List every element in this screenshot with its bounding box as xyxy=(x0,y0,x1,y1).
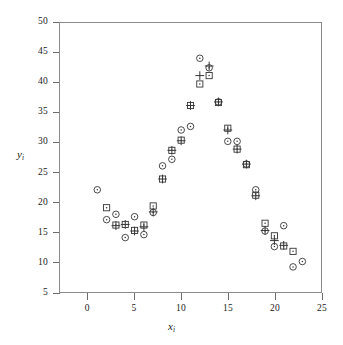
y-tick-label: 35 xyxy=(0,107,48,117)
data-point-circle xyxy=(225,138,232,145)
x-tick-label: 15 xyxy=(213,303,243,313)
y-tick-label: 40 xyxy=(0,77,48,87)
data-point-square xyxy=(262,220,268,226)
data-point-circle xyxy=(280,222,287,229)
data-point-square xyxy=(197,81,203,87)
data-points-layer xyxy=(60,23,321,292)
y-tick-label: 5 xyxy=(0,288,48,298)
y-tick-label: 10 xyxy=(0,258,48,268)
x-tick-mark xyxy=(228,293,229,300)
scatter-plot-figure: 5101520253035404550 0510152025 yi xi xyxy=(0,0,343,345)
y-tick-label: 30 xyxy=(0,137,48,147)
data-point-plus xyxy=(195,71,204,80)
data-point-square xyxy=(104,205,110,211)
x-tick-mark xyxy=(87,293,88,300)
data-point-circle xyxy=(290,264,297,271)
data-point-circle xyxy=(141,231,148,238)
data-point-circle xyxy=(197,55,204,62)
y-tick-label: 25 xyxy=(0,168,48,178)
y-axis-label-subscript: i xyxy=(22,153,24,162)
y-tick-label: 15 xyxy=(0,228,48,238)
x-tick-label: 0 xyxy=(72,303,102,313)
data-point-circle xyxy=(234,138,241,145)
data-point-circle xyxy=(103,216,110,223)
data-point-circle xyxy=(113,211,120,218)
data-point-circle xyxy=(299,258,306,265)
data-point-circle xyxy=(131,213,138,220)
data-point-square xyxy=(290,248,296,254)
x-tick-mark xyxy=(275,293,276,300)
x-axis-label: xi xyxy=(0,320,343,334)
x-tick-label: 25 xyxy=(307,303,337,313)
x-tick-mark xyxy=(134,293,135,300)
x-tick-label: 20 xyxy=(260,303,290,313)
y-tick-label: 50 xyxy=(0,17,48,27)
plot-area xyxy=(59,22,322,293)
y-tick-label: 45 xyxy=(0,47,48,57)
x-tick-mark xyxy=(181,293,182,300)
data-point-square xyxy=(206,73,212,79)
data-point-circle xyxy=(178,127,185,134)
x-tick-label: 10 xyxy=(166,303,196,313)
y-tick-label: 20 xyxy=(0,198,48,208)
data-point-circle xyxy=(169,156,176,163)
data-point-circle xyxy=(122,234,129,241)
data-point-circle xyxy=(159,163,166,170)
data-point-circle xyxy=(187,123,194,130)
data-point-circle xyxy=(94,187,101,194)
x-tick-label: 5 xyxy=(119,303,149,313)
data-point-plus xyxy=(261,226,270,235)
x-tick-mark xyxy=(322,293,323,300)
y-axis-label: yi xyxy=(17,148,24,162)
x-axis-label-subscript: i xyxy=(173,325,175,334)
